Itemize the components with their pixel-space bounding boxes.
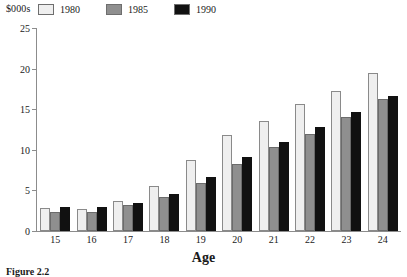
bar-1990-age-21 (279, 142, 289, 231)
bar-1985-age-19 (196, 183, 206, 231)
bar-1980-age-18 (149, 186, 159, 231)
y-axis-unit-label: $000s (6, 3, 30, 14)
bars-layer (37, 28, 401, 231)
x-tick-label-24: 24 (365, 234, 401, 245)
bar-1980-age-15 (40, 208, 50, 231)
x-tick-label-20: 20 (219, 234, 255, 245)
bar-group-age-21 (255, 28, 291, 231)
bar-1980-age-24 (368, 73, 378, 231)
legend-swatch-1985 (106, 4, 122, 15)
y-tick-label: 25 (20, 23, 30, 34)
x-tick-label-23: 23 (328, 234, 364, 245)
chart-legend: 1980 1985 1990 (38, 4, 216, 15)
bar-1990-age-24 (388, 96, 398, 231)
legend-entry-1985: 1985 (106, 4, 148, 15)
bar-1990-age-15 (60, 207, 70, 231)
y-tick-mark (32, 109, 36, 110)
bar-chart-figure: $000s 1980 1985 1990 0510152025 15161718… (0, 0, 407, 277)
legend-swatch-1990 (174, 4, 190, 15)
x-tick-label-21: 21 (255, 234, 291, 245)
bar-1980-age-19 (186, 160, 196, 231)
bar-group-age-18 (146, 28, 182, 231)
x-tick-label-22: 22 (292, 234, 328, 245)
bar-1980-age-17 (113, 201, 123, 231)
bar-1980-age-20 (222, 135, 232, 231)
legend-label-1985: 1985 (128, 5, 148, 15)
legend-label-1980: 1980 (60, 5, 80, 15)
y-tick-label: 15 (20, 104, 30, 115)
bar-group-age-19 (183, 28, 219, 231)
bar-1985-age-18 (159, 197, 169, 231)
bar-group-age-23 (328, 28, 364, 231)
bar-1990-age-23 (351, 112, 361, 231)
x-axis-title: Age (0, 250, 407, 266)
bar-1990-age-19 (206, 177, 216, 231)
bar-group-age-24 (365, 28, 401, 231)
legend-swatch-1980 (38, 4, 54, 15)
x-tick-label-17: 17 (110, 234, 146, 245)
bar-1985-age-15 (50, 212, 60, 231)
y-tick-mark (32, 28, 36, 29)
x-axis-ticks: 15161718192021222324 (37, 234, 401, 245)
y-tick-mark (32, 69, 36, 70)
x-axis-line (36, 231, 401, 232)
y-tick-label: 5 (25, 185, 30, 196)
bar-1990-age-17 (133, 203, 143, 231)
bar-group-age-20 (219, 28, 255, 231)
y-tick-label: 20 (20, 63, 30, 74)
bar-1980-age-21 (259, 121, 269, 231)
plot-area: 0510152025 (36, 28, 401, 232)
bar-1980-age-16 (77, 209, 87, 231)
bar-1990-age-20 (242, 157, 252, 231)
bar-1985-age-17 (123, 205, 133, 231)
bar-1985-age-21 (269, 147, 279, 231)
bar-1985-age-16 (87, 212, 97, 231)
bar-group-age-15 (37, 28, 73, 231)
bar-1990-age-16 (97, 207, 107, 231)
bar-1990-age-22 (315, 127, 325, 231)
figure-caption: Figure 2.2 (6, 266, 49, 277)
bar-group-age-22 (292, 28, 328, 231)
bar-1985-age-23 (341, 117, 351, 231)
bar-1990-age-18 (169, 194, 179, 231)
x-tick-label-15: 15 (37, 234, 73, 245)
y-tick-mark (32, 190, 36, 191)
x-tick-label-18: 18 (146, 234, 182, 245)
bar-1980-age-22 (295, 104, 305, 231)
bar-1985-age-22 (305, 134, 315, 231)
y-tick-mark (32, 231, 36, 232)
bar-1985-age-24 (378, 99, 388, 231)
legend-entry-1980: 1980 (38, 4, 80, 15)
bar-group-age-17 (110, 28, 146, 231)
legend-entry-1990: 1990 (174, 4, 216, 15)
bar-1980-age-23 (331, 91, 341, 231)
y-tick-mark (32, 150, 36, 151)
x-tick-label-19: 19 (183, 234, 219, 245)
legend-label-1990: 1990 (196, 5, 216, 15)
y-tick-label: 0 (25, 226, 30, 237)
x-tick-label-16: 16 (73, 234, 109, 245)
y-tick-label: 10 (20, 144, 30, 155)
bar-group-age-16 (73, 28, 109, 231)
bar-1985-age-20 (232, 164, 242, 231)
